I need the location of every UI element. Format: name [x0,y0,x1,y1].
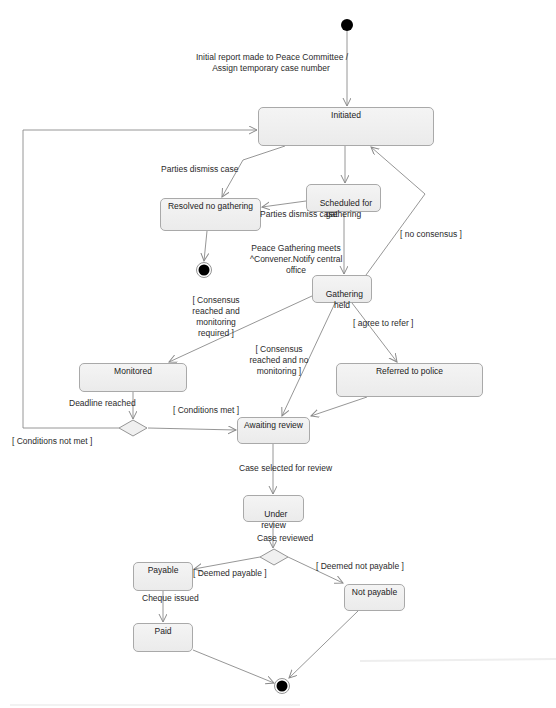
transition-label-cheque-issued: Cheque issued [142,593,199,604]
state-label: Initiated [331,110,361,120]
final-node-end [277,681,288,692]
state-label: Monitored [114,366,152,376]
state-not-payable: Not payable [344,584,405,611]
transition-label-agree-to-refer: [ agree to refer ] [353,318,413,329]
transition-label-no-consensus: [ no consensus ] [400,229,462,240]
transition-label-consensus-no-monitoring: [ Consensus reached and no monitoring ] [244,344,314,377]
state-awaiting-review: Awaiting review [237,417,310,444]
state-label: Not payable [352,587,397,597]
decision-diamond-review [260,549,288,565]
state-payable: Payable [133,562,193,591]
transition-label-consensus-monitoring: [ Consensus reached and monitoring requi… [186,295,246,339]
transition-label-initial-report: Initial report made to Peace Committee /… [196,52,346,74]
transition-label-deadline-reached: Deadline reached [69,398,136,409]
state-initiated: Initiated [258,107,434,146]
transition-label-deemed-payable: [ Deemed payable ] [193,568,267,579]
transition-label-case-reviewed: Case reviewed [257,533,313,544]
state-scheduled-for-gathering: Scheduled for gathering [306,184,381,212]
state-label: Awaiting review [244,420,303,430]
initial-node [341,19,353,31]
transition-label-peace-gathering: Peace Gathering meets ^Convener.Notify c… [250,243,342,276]
final-node-resolved [199,265,210,276]
state-under-review: Under review [243,495,304,522]
state-referred-to-police: Referred to police [336,363,483,397]
state-monitored: Monitored [79,363,187,392]
transition-label-deemed-not-payable: [ Deemed not payable ] [316,561,404,572]
state-resolved-no-gathering: Resolved no gathering [160,198,261,231]
state-label: Resolved no gathering [168,201,253,211]
state-paid: Paid [133,623,193,652]
state-label: Payable [148,565,179,575]
state-label: Referred to police [376,366,443,376]
transition-label-conditions-met: [ Conditions met ] [173,405,239,416]
state-label: Under review [261,509,287,530]
transition-label-case-selected: Case selected for review [239,463,332,474]
state-gathering-held: Gathering held [312,275,372,303]
transition-label-parties-dismiss-2: Parties dismiss case [260,209,337,220]
decision-diamond-monitoring [119,420,147,436]
transition-label-conditions-not-met: [ Conditions not met ] [12,436,92,447]
state-label: Paid [154,626,171,636]
transition-label-parties-dismiss-1: Parties dismiss case [161,164,238,175]
